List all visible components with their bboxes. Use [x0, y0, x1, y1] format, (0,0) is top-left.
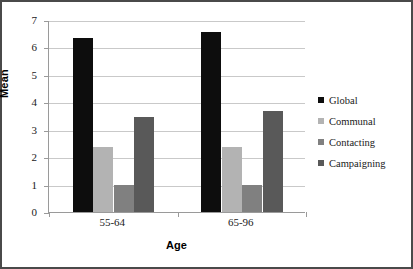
y-tick-mark-2: [44, 158, 49, 159]
square-swatch-medium-gray-icon: [318, 139, 324, 145]
bar-contacting-55-64: [114, 185, 134, 212]
bar-campaigning-55-64: [134, 117, 154, 212]
legend-item-communal[interactable]: Communal: [318, 115, 413, 127]
y-tick-label: 1: [13, 180, 37, 191]
x-tick-label-55-64: 55-64: [72, 216, 152, 228]
y-tick-mark-4: [44, 103, 49, 104]
bar-global-65-96: [201, 32, 221, 212]
y-tick-mark-1: [44, 186, 49, 187]
square-swatch-black-icon: [318, 97, 324, 103]
gridline-y-7: [49, 21, 305, 22]
legend-item-global[interactable]: Global: [318, 94, 413, 106]
legend-item-campaigning[interactable]: Campaigning: [318, 157, 413, 169]
bar-contacting-65-96: [242, 185, 262, 212]
legend-label: Communal: [329, 116, 376, 127]
bar-campaigning-65-96: [263, 111, 283, 212]
legend-label: Campaigning: [329, 158, 386, 169]
bar-communal-65-96: [222, 147, 242, 212]
square-swatch-dark-gray-icon: [318, 160, 324, 166]
y-tick-label: 3: [13, 125, 37, 136]
y-tick-label: 7: [13, 15, 37, 26]
y-tick-mark-5: [44, 76, 49, 77]
x-axis-title: Age: [48, 239, 305, 251]
y-tick-label: 2: [13, 152, 37, 163]
y-tick-label: 4: [13, 97, 37, 108]
y-axis-title: Mean: [0, 69, 10, 98]
plot-area: [48, 21, 305, 213]
x-tick-label-65-96: 65-96: [201, 216, 281, 228]
legend-item-contacting[interactable]: Contacting: [318, 136, 413, 148]
legend-label: Contacting: [329, 137, 375, 148]
bar-global-55-64: [73, 38, 93, 212]
y-tick-label: 0: [13, 207, 37, 218]
legend-label: Global: [329, 95, 358, 106]
chart-figure: Mean Age 0123456755-6465-96 GlobalCommun…: [0, 0, 413, 269]
bar-communal-55-64: [93, 147, 113, 212]
y-tick-mark-3: [44, 131, 49, 132]
square-swatch-light-gray-icon: [318, 118, 324, 124]
y-tick-mark-6: [44, 48, 49, 49]
x-tick-mark: [49, 212, 50, 217]
y-tick-label: 5: [13, 70, 37, 81]
x-tick-mark: [178, 212, 179, 217]
chart-legend: GlobalCommunalContactingCampaigning: [318, 94, 413, 178]
x-tick-mark: [306, 212, 307, 217]
y-tick-label: 6: [13, 42, 37, 53]
y-tick-mark-7: [44, 21, 49, 22]
